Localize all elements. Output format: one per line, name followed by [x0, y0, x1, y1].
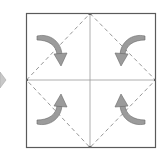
paper-square: [27, 14, 156, 148]
crease-marker-left: [26, 79, 28, 81]
step-arrow-icon: [0, 72, 6, 88]
crease-marker-top: [89, 13, 92, 15]
origami-diagram: [0, 0, 164, 159]
crease-marker-right: [154, 79, 156, 81]
crease-marker-bottom: [89, 146, 92, 148]
